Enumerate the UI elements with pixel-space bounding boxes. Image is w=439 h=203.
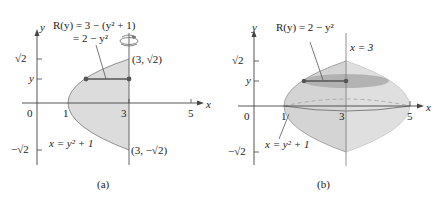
x-axis-arrow-icon [417, 104, 424, 109]
x-tick-3: 3 [339, 111, 345, 122]
x-tick-5: 5 [407, 111, 413, 122]
y-axis-label: y [40, 22, 45, 33]
x-axis-label: x [206, 99, 211, 110]
x-tick-1: 1 [281, 111, 287, 122]
radius-label-line2: = 2 − y² [73, 33, 108, 44]
x-tick-1: 1 [63, 108, 69, 119]
y-tick-y: y [246, 75, 251, 86]
y-tick-sqrt2: √2 [232, 55, 244, 66]
caption-b: (b) [317, 178, 330, 190]
y-tick-neg-sqrt2: −√2 [228, 146, 246, 157]
radius-label-line1: R(y) = 3 − (y² + 1) [53, 20, 135, 31]
radius-endpoint-right [127, 77, 132, 82]
panel-b: y x 0 1 3 5 √2 y −√2 R(y) = 2 − y² x = 3… [220, 0, 439, 203]
radius-endpoint-left [302, 79, 307, 84]
radius-label: R(y) = 2 − y² [276, 22, 334, 33]
y-tick-sqrt2: √2 [15, 53, 27, 64]
point-bottom-label: (3, −√2) [131, 145, 167, 156]
caption-a: (a) [97, 178, 109, 190]
radius-endpoint-left [84, 77, 89, 82]
x-axis-arrow-icon [197, 101, 204, 106]
y-tick-y: y [29, 73, 34, 84]
radius-endpoint-right [344, 79, 349, 84]
x-tick-0: 0 [244, 111, 250, 122]
y-axis-label: y [252, 22, 257, 33]
y-axis-arrow-icon [35, 29, 40, 36]
x-tick-0: 0 [27, 108, 33, 119]
x-tick-5: 5 [188, 108, 194, 119]
x-axis-label: x [426, 102, 431, 113]
axis-of-rotation-label: x = 3 [350, 42, 373, 53]
x-tick-3: 3 [121, 108, 127, 119]
curve-label: x = y² + 1 [265, 139, 309, 150]
y-tick-neg-sqrt2: −√2 [11, 144, 29, 155]
point-top-label: (3, √2) [132, 54, 162, 65]
panel-a: y x 0 1 3 5 √2 y −√2 R(y) = 3 − (y² + 1)… [0, 0, 219, 203]
curve-label: x = y² + 1 [49, 138, 93, 149]
